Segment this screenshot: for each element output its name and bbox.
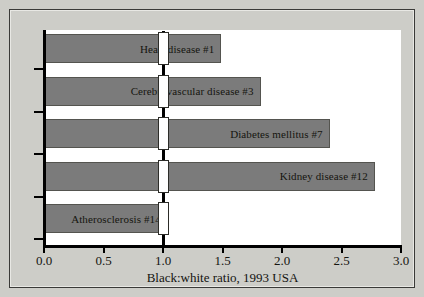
bar-row: Atherosclerosis #14 xyxy=(44,204,168,233)
x-tick xyxy=(281,246,283,253)
x-tick-label: 2.5 xyxy=(322,253,362,269)
x-tick-label: 1.0 xyxy=(143,253,183,269)
y-tick xyxy=(34,68,43,70)
reference-marker xyxy=(158,202,169,235)
reference-marker xyxy=(158,160,169,193)
x-tick xyxy=(103,246,105,253)
x-tick-label: 1.5 xyxy=(203,253,243,269)
y-axis-spine xyxy=(43,30,46,248)
bar-row: Cerebrovascular disease #3 xyxy=(44,77,261,106)
bar-label: Heart disease #1 xyxy=(140,43,214,55)
y-tick xyxy=(34,153,43,155)
x-tick-label: 3.0 xyxy=(381,253,421,269)
bar-row: Kidney disease #12 xyxy=(44,162,375,191)
bar-label: Atherosclerosis #14 xyxy=(71,213,161,225)
chart-figure: Heart disease #1Cerebrovascular disease … xyxy=(0,0,424,297)
y-tick xyxy=(34,111,43,113)
x-tick-label: 2.0 xyxy=(262,253,302,269)
bar[interactable]: Kidney disease #12 xyxy=(44,162,375,191)
x-tick xyxy=(341,246,343,253)
reference-marker xyxy=(158,117,169,150)
bar[interactable]: Atherosclerosis #14 xyxy=(44,204,168,233)
y-tick xyxy=(34,196,43,198)
x-tick xyxy=(222,246,224,253)
bar[interactable]: Diabetes mellitus #7 xyxy=(44,119,330,148)
bar-row: Diabetes mellitus #7 xyxy=(44,119,330,148)
bar[interactable]: Heart disease #1 xyxy=(44,34,221,63)
x-tick-label: 0.5 xyxy=(84,253,124,269)
bar-label: Cerebrovascular disease #3 xyxy=(131,85,254,97)
x-tick-label: 0.0 xyxy=(24,253,64,269)
bar-row: Heart disease #1 xyxy=(44,34,221,63)
plot-top-edge xyxy=(44,30,401,32)
bar-label: Diabetes mellitus #7 xyxy=(230,128,322,140)
x-axis-title: Black:white ratio, 1993 USA xyxy=(44,270,401,286)
reference-marker xyxy=(158,32,169,65)
y-tick xyxy=(34,238,43,240)
bar-label: Kidney disease #12 xyxy=(280,170,368,182)
x-tick xyxy=(162,246,164,253)
reference-marker xyxy=(158,75,169,108)
x-tick xyxy=(400,246,402,253)
x-tick xyxy=(43,246,45,253)
bar[interactable]: Cerebrovascular disease #3 xyxy=(44,77,261,106)
